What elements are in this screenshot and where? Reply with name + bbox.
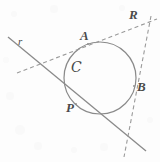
- tangency-point-p: [75, 103, 77, 105]
- label-line-r: r: [18, 36, 22, 47]
- geometry-figure: A R B P r C: [0, 0, 160, 162]
- label-point-a: A: [80, 29, 89, 42]
- label-circle-c: C: [71, 60, 82, 74]
- circle-c: [64, 42, 136, 114]
- label-point-r: R: [129, 8, 138, 21]
- line-r: [8, 37, 146, 151]
- tangency-point-b: [133, 85, 135, 87]
- paper-texture: [3, 5, 153, 153]
- tangency-point-a: [87, 43, 89, 45]
- label-point-p: P: [66, 101, 74, 114]
- geometry-canvas: [0, 0, 160, 162]
- label-point-b: B: [137, 80, 146, 93]
